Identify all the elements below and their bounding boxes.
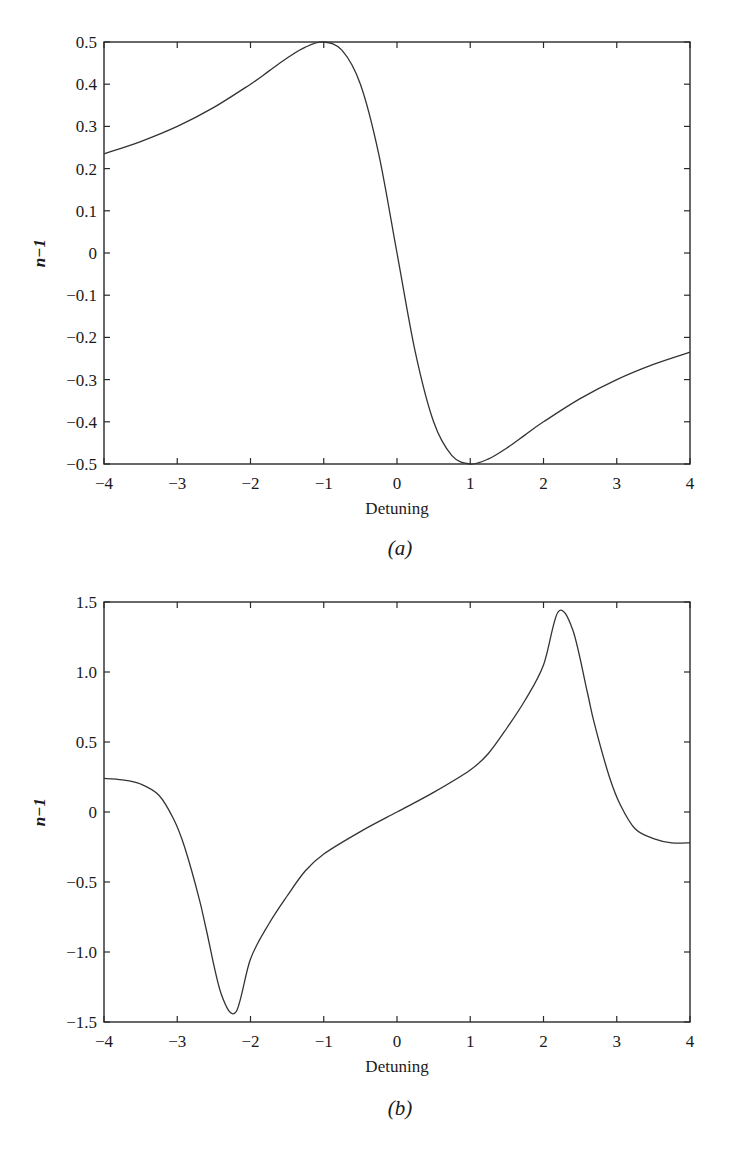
x-tick-label: 4 [686, 1032, 695, 1051]
figure-b: −4−3−2−1012341.51.00.50−0.5−1.0−1.5Detun… [0, 0, 729, 1151]
y-tick-label: −0.5 [66, 873, 97, 892]
y-tick-label: 1.5 [76, 593, 97, 612]
y-tick-label: −1.5 [66, 1013, 97, 1032]
x-tick-label: −1 [315, 1032, 333, 1051]
y-tick-label: −1.0 [66, 943, 97, 962]
x-tick-label: −2 [241, 1032, 259, 1051]
x-tick-label: −4 [95, 1032, 114, 1051]
chart-b-plot: −4−3−2−1012341.51.00.50−0.5−1.0−1.5Detun… [0, 0, 729, 1151]
caption-b: (b) [370, 1096, 430, 1121]
y-tick-label: 0.5 [76, 733, 97, 752]
data-curve [104, 610, 690, 1014]
x-axis-label: Detuning [365, 1057, 429, 1076]
x-tick-label: −3 [168, 1032, 186, 1051]
x-tick-label: 0 [393, 1032, 402, 1051]
y-axis-label: n−1 [30, 798, 49, 826]
x-tick-label: 1 [466, 1032, 475, 1051]
y-tick-label: 1.0 [76, 663, 97, 682]
y-tick-label: 0 [89, 803, 98, 822]
x-tick-label: 3 [613, 1032, 622, 1051]
x-tick-label: 2 [539, 1032, 548, 1051]
